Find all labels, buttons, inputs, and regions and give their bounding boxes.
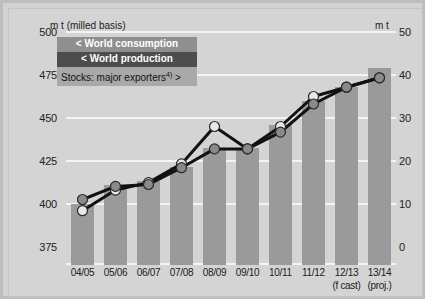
legend-stocks-label: Stocks: major exporters xyxy=(61,72,166,83)
x-axis-label: 13/14 xyxy=(360,267,400,278)
production-marker xyxy=(342,82,352,92)
right-tick-30: 30 xyxy=(399,112,425,124)
production-marker xyxy=(243,144,253,154)
chart-legend: < World consumption < World production S… xyxy=(57,37,197,86)
legend-world-consumption: < World consumption xyxy=(57,37,197,52)
right-tick-0: 0 xyxy=(399,241,425,253)
legend-stocks: Stocks: major exporters4) > xyxy=(57,67,197,86)
left-tick-450: 450 xyxy=(23,112,57,124)
production-marker xyxy=(375,73,385,83)
production-marker xyxy=(177,163,187,173)
right-tick-50: 50 xyxy=(399,26,425,38)
legend-world-production: < World production xyxy=(57,52,197,67)
consumption-marker xyxy=(78,206,88,216)
right-axis-unit-label: m t xyxy=(375,20,389,31)
production-marker xyxy=(309,99,319,109)
left-tick-475: 475 xyxy=(23,69,57,81)
left-tick-375: 375 xyxy=(23,241,57,253)
legend-stocks-arrow: > xyxy=(175,72,181,83)
production-marker xyxy=(111,181,121,191)
consumption-marker xyxy=(210,122,220,132)
left-tick-400: 400 xyxy=(23,198,57,210)
right-tick-40: 40 xyxy=(399,69,425,81)
consumption-line xyxy=(83,78,380,211)
production-marker xyxy=(276,127,286,137)
production-marker xyxy=(78,195,88,205)
x-axis-label-note: (proj.) xyxy=(360,280,400,291)
production-marker xyxy=(210,144,220,154)
legend-stocks-footnote: 4) xyxy=(166,71,172,78)
left-tick-500: 500 xyxy=(23,26,57,38)
production-marker xyxy=(144,180,154,190)
chart-frame: m t (milled basis) m t 500 475 450 425 4… xyxy=(0,0,425,299)
left-tick-425: 425 xyxy=(23,155,57,167)
right-tick-20: 20 xyxy=(399,155,425,167)
chart-inner-panel: m t (milled basis) m t 500 475 450 425 4… xyxy=(8,8,423,297)
right-tick-10: 10 xyxy=(399,198,425,210)
left-axis-unit-label: m t (milled basis) xyxy=(50,20,126,31)
